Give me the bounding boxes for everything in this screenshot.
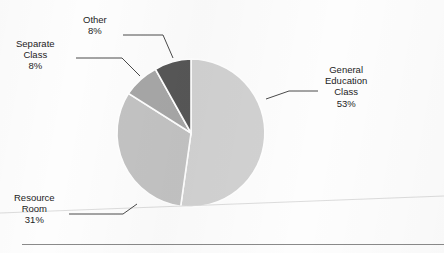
slice-label-general-education-line1: General	[325, 64, 367, 75]
leader-line-other	[123, 35, 173, 58]
leader-line-general-education	[266, 91, 318, 99]
pie-chart-figure: General Education Class 53% Other 8% Sep…	[0, 0, 444, 253]
slice-label-separate-class-line1: Separate	[16, 38, 55, 49]
slice-label-resource-room-line1: Resource	[14, 192, 55, 203]
slice-label-resource-room-line2: Room	[14, 203, 55, 214]
slice-label-other-percent: 8%	[83, 25, 107, 36]
slice-label-general-education-percent: 53%	[325, 98, 367, 109]
slice-label-resource-room-percent: 31%	[14, 214, 55, 225]
leader-line-separate-class	[76, 58, 140, 76]
slice-label-general-education-line2: Education	[325, 75, 367, 86]
slice-label-separate-class-line2: Class	[16, 49, 55, 60]
pie-chart-graphic	[0, 0, 444, 253]
slice-label-other: Other 8%	[83, 14, 107, 36]
slice-label-general-education: General Education Class 53%	[325, 64, 367, 109]
pie-slice-general-education	[181, 59, 265, 207]
slice-label-resource-room: Resource Room 31%	[14, 192, 55, 226]
footer-divider-rule	[22, 244, 444, 245]
slice-label-separate-class: Separate Class 8%	[16, 38, 55, 72]
slice-label-general-education-line3: Class	[325, 86, 367, 97]
slice-label-other-line1: Other	[83, 14, 107, 25]
slice-label-separate-class-percent: 8%	[16, 60, 55, 71]
